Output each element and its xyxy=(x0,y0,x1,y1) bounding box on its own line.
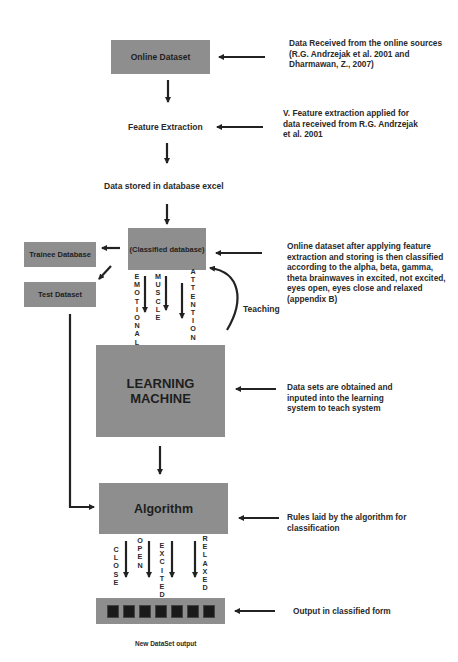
label-excited: E X C I T E D xyxy=(158,542,166,599)
output-cell xyxy=(155,605,167,618)
note-algorithm: Rules laid by the algorithm for classifi… xyxy=(287,512,427,533)
classified-database-label: (Classified database) xyxy=(129,245,204,254)
algorithm-node: Algorithm xyxy=(99,483,228,534)
output-cell xyxy=(187,605,199,618)
label-emotional: E M O T I O N A L xyxy=(133,273,141,347)
learning-machine-label: LEARNING MACHINE xyxy=(96,376,225,406)
output-cells xyxy=(107,605,215,618)
label-teaching: Teaching xyxy=(243,304,280,314)
note-learning-machine: Data sets are obtained and inputed into … xyxy=(287,382,407,414)
note-online-dataset: Data Received from the online sources (R… xyxy=(289,38,454,70)
output-cell xyxy=(139,605,151,618)
label-relaxed: R E L A X E D xyxy=(201,535,209,592)
output-node xyxy=(96,598,225,624)
output-cell xyxy=(107,605,119,618)
algorithm-label: Algorithm xyxy=(134,502,193,516)
label-open: O P E N xyxy=(136,537,144,570)
trainee-database-label: Trainee Database xyxy=(29,250,91,259)
data-stored-node: Data stored in database excel xyxy=(104,181,224,191)
online-dataset-node: Online Dataset xyxy=(111,40,210,74)
classified-database-node: (Classified database) xyxy=(128,228,206,270)
note-feature-extraction: V. Feature extraction applied for data r… xyxy=(283,108,418,140)
note-classified-database: Online dataset after applying feature ex… xyxy=(287,241,455,304)
trainee-database-node: Trainee Database xyxy=(24,242,96,267)
output-cell xyxy=(171,605,183,618)
feature-extraction-node: Feature Extraction xyxy=(128,122,203,132)
test-dataset-node: Test Dataset xyxy=(24,282,96,307)
arrow-test-to-algorithm xyxy=(70,314,94,507)
new-dataset-output-caption: New DataSet output xyxy=(135,640,196,647)
arrow-classified-to-test xyxy=(99,266,111,279)
note-output: Output in classified form xyxy=(293,606,433,617)
output-cell xyxy=(123,605,135,618)
output-cell xyxy=(203,605,215,618)
label-close: C L O S E xyxy=(112,546,120,587)
label-attention: A T T E N T I O N xyxy=(189,268,197,342)
online-dataset-label: Online Dataset xyxy=(131,52,191,62)
label-muscle: M U S C L E xyxy=(154,273,162,322)
learning-machine-node: LEARNING MACHINE xyxy=(96,345,225,437)
connector-layer xyxy=(0,0,458,662)
arrow-teaching xyxy=(210,268,237,330)
test-dataset-label: Test Dataset xyxy=(38,290,82,299)
